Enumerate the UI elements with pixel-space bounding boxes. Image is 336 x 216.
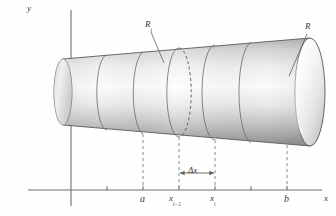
label-x-i: xi bbox=[210, 194, 216, 203]
label-R: R bbox=[305, 22, 311, 31]
label-x-i-sub: i bbox=[214, 201, 216, 207]
delta-x-arrow-right bbox=[209, 171, 214, 175]
label-a: a bbox=[140, 194, 145, 204]
y-axis-label: y bbox=[27, 4, 31, 13]
delta-x-arrow-left bbox=[180, 171, 185, 175]
label-x-i-minus-1: xi−1 bbox=[169, 194, 181, 203]
tube-body-roll-shade bbox=[54, 38, 325, 146]
label-R-sub-i-main: R bbox=[145, 19, 151, 29]
solid-of-revolution bbox=[54, 38, 325, 146]
label-R-sub-i: Ri bbox=[145, 20, 152, 29]
x-axis-ticks bbox=[107, 186, 287, 190]
label-R-sub-i-sub: i bbox=[151, 27, 153, 33]
cylindrical-shells-figure bbox=[0, 0, 336, 216]
x-axis-label: x bbox=[324, 194, 328, 203]
label-delta-x: Δx bbox=[188, 166, 197, 175]
left-cap-inner-shade bbox=[54, 59, 72, 125]
label-b: b bbox=[284, 194, 289, 204]
label-x-i-minus-1-sub: i−1 bbox=[173, 201, 181, 207]
